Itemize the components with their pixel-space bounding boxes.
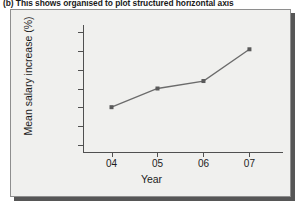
series-marker <box>155 87 159 91</box>
series-marker <box>110 105 114 109</box>
figure-panel: Mean salary increase (%) Year 1.02.03.04… <box>10 9 291 197</box>
series-line <box>112 49 250 107</box>
chart-series <box>11 10 291 197</box>
figure-caption: (b) This shows organised to plot structu… <box>0 0 299 9</box>
chart-plot-area: Mean salary increase (%) Year 1.02.03.04… <box>11 10 291 197</box>
series-marker <box>247 47 251 51</box>
figure-caption-text: (b) This shows organised to plot structu… <box>0 0 299 9</box>
series-marker <box>201 79 205 83</box>
